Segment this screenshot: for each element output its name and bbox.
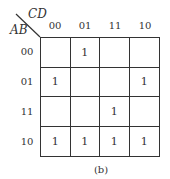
kmap-cell: 1: [71, 38, 101, 68]
column-label: 00: [40, 20, 70, 31]
kmap-cell: 1: [130, 127, 160, 157]
kmap-cell: [100, 38, 130, 68]
column-label: 10: [130, 20, 160, 31]
row-label: 01: [18, 76, 36, 87]
kmap-cell: 1: [100, 97, 130, 127]
kmap-cell: [41, 97, 71, 127]
kmap-cell: 1: [41, 68, 71, 98]
kmap-cell: 1: [130, 68, 160, 98]
column-variable-label: CD: [28, 7, 47, 21]
kmap-cell: [130, 38, 160, 68]
column-label: 11: [100, 20, 130, 31]
kmap-cell: [100, 68, 130, 98]
kmap-cell: 1: [100, 127, 130, 157]
kmap-cell: [41, 38, 71, 68]
kmap-cell: [71, 68, 101, 98]
kmap-cell: 1: [41, 127, 71, 157]
row-label: 11: [18, 106, 36, 117]
karnaugh-map-grid: 1 1 1 1 1 1 1 1: [40, 37, 160, 157]
kmap-cell: [71, 97, 101, 127]
row-label: 00: [18, 46, 36, 57]
column-label: 01: [70, 20, 100, 31]
kmap-cell: 1: [71, 127, 101, 157]
figure-caption: (b): [94, 164, 108, 175]
figure-caption-wrapper: (b): [0, 164, 170, 175]
row-variable-label: AB: [10, 23, 27, 37]
row-label: 10: [18, 136, 36, 147]
kmap-cell: [130, 97, 160, 127]
